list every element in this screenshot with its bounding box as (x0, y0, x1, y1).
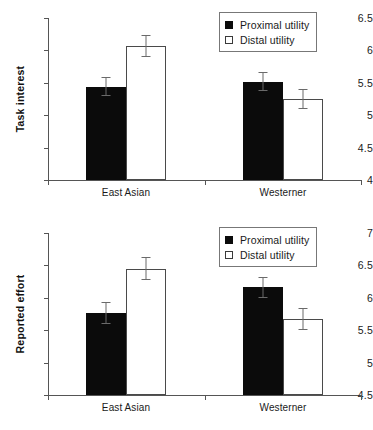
y-axis-tick-label: 6.5 (331, 259, 373, 271)
chart-panel-task-interest: 44.555.566.5Task interestEast AsianWeste… (0, 0, 373, 215)
x-axis-category-label: Westerner (260, 187, 307, 198)
y-axis-title: Task interest (14, 39, 26, 159)
x-axis-category-label: East Asian (102, 187, 150, 198)
error-bar (259, 72, 268, 90)
error-bar (102, 302, 111, 324)
y-axis-tick (44, 83, 48, 84)
chart-legend: Proximal utilityDistal utility (219, 227, 317, 267)
y-axis-title: Reported effort (14, 254, 26, 374)
y-axis-tick-label: 5 (331, 109, 373, 121)
error-bar (102, 77, 111, 96)
legend-label-distal: Distal utility (240, 249, 295, 261)
open-square-icon (225, 36, 233, 44)
y-axis-tick (44, 18, 48, 19)
y-axis-tick-label: 5.5 (331, 324, 373, 336)
error-bar (299, 89, 308, 110)
y-axis-line (48, 18, 49, 180)
chart-panel-reported-effort: 4.555.566.57Reported effortEast AsianWes… (0, 215, 373, 430)
bar-reported-effort-east-asian-distal (126, 269, 166, 395)
bar-reported-effort-westerner-distal (283, 319, 323, 395)
bar-reported-effort-westerner-proximal (243, 287, 283, 395)
filled-square-icon (225, 236, 233, 244)
bar-task-interest-westerner-distal (283, 99, 323, 180)
y-axis-tick (44, 233, 48, 234)
x-axis-category-label: East Asian (102, 402, 150, 413)
error-bar (259, 277, 268, 298)
legend-item-distal: Distal utility (225, 247, 309, 262)
bar-task-interest-east-asian-distal (126, 46, 166, 180)
legend-item-proximal: Proximal utility (225, 17, 309, 32)
y-axis-tick-label: 4 (331, 174, 373, 186)
bar-task-interest-east-asian-proximal (86, 87, 126, 180)
x-axis-tick (205, 395, 206, 400)
x-axis-tick (361, 180, 362, 185)
y-axis-tick (44, 363, 48, 364)
y-axis-tick-label: 7 (331, 227, 373, 239)
y-axis-tick-label: 6.5 (331, 12, 373, 24)
y-axis-tick-label: 6 (331, 292, 373, 304)
legend-label-proximal: Proximal utility (240, 234, 309, 246)
y-axis-tick (44, 330, 48, 331)
y-axis-tick-label: 4.5 (331, 142, 373, 154)
legend-label-distal: Distal utility (240, 34, 295, 46)
y-axis-tick (44, 148, 48, 149)
error-bar (142, 35, 151, 57)
legend-item-distal: Distal utility (225, 32, 309, 47)
y-axis-tick (44, 115, 48, 116)
y-axis-tick-label: 5 (331, 357, 373, 369)
y-axis-line (48, 233, 49, 395)
x-axis-tick (361, 395, 362, 400)
y-axis-tick (44, 298, 48, 299)
bar-reported-effort-east-asian-proximal (86, 313, 126, 395)
x-axis-tick (48, 180, 49, 185)
x-axis-tick (48, 395, 49, 400)
figure-two-panel-bar-charts: 44.555.566.5Task interestEast AsianWeste… (0, 0, 373, 430)
x-axis-tick (205, 180, 206, 185)
y-axis-tick-label: 4.5 (331, 389, 373, 401)
y-axis-tick (44, 265, 48, 266)
error-bar (142, 257, 151, 280)
filled-square-icon (225, 21, 233, 29)
y-axis-tick-label: 6 (331, 44, 373, 56)
error-bar (299, 308, 308, 330)
x-axis-category-label: Westerner (260, 402, 307, 413)
legend-label-proximal: Proximal utility (240, 19, 309, 31)
open-square-icon (225, 251, 233, 259)
y-axis-tick-label: 5.5 (331, 77, 373, 89)
y-axis-tick (44, 50, 48, 51)
bar-task-interest-westerner-proximal (243, 82, 283, 180)
legend-item-proximal: Proximal utility (225, 232, 309, 247)
chart-legend: Proximal utilityDistal utility (219, 12, 317, 52)
